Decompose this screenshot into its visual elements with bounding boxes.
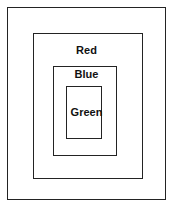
green-box-label: Green [0, 107, 173, 118]
nested-boxes-diagram: Red Blue Green [0, 0, 173, 207]
red-box-label: Red [0, 45, 173, 56]
blue-box-label: Blue [0, 69, 173, 80]
